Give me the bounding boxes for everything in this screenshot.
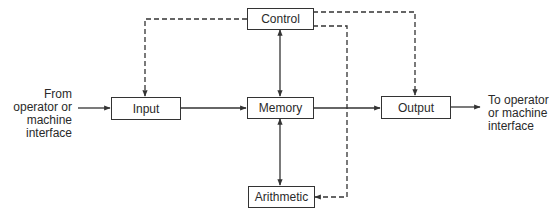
sink-label: To operator or machine interface — [488, 94, 557, 133]
control-box: Control — [247, 8, 314, 30]
arithmetic-label: Arithmetic — [255, 190, 308, 204]
memory-box: Memory — [247, 97, 314, 119]
dashed-control-to-input — [145, 19, 247, 96]
source-label: From operator or machine interface — [0, 88, 72, 140]
dashed-control-to-arithmetic — [313, 26, 347, 197]
input-box: Input — [111, 97, 181, 120]
output-box: Output — [381, 96, 451, 119]
dashed-control-to-output — [313, 12, 415, 95]
output-label: Output — [398, 101, 434, 115]
input-label: Input — [133, 102, 160, 116]
memory-label: Memory — [259, 101, 302, 115]
arithmetic-box: Arithmetic — [248, 186, 315, 208]
control-label: Control — [261, 12, 300, 26]
